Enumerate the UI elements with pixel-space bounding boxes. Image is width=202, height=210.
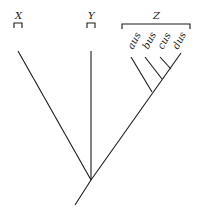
label-aus: aus xyxy=(125,30,143,51)
label-dus: dus xyxy=(170,30,188,51)
bracket-x xyxy=(14,23,22,28)
group-x: X xyxy=(14,10,23,28)
label-cus: cus xyxy=(155,31,173,51)
label-bus: bus xyxy=(140,30,158,51)
bracket-y xyxy=(87,23,95,28)
label-z: Z xyxy=(152,10,161,21)
label-x: X xyxy=(14,10,23,21)
branch-root xyxy=(75,180,91,205)
branch-bus xyxy=(145,57,162,79)
branch-x xyxy=(18,51,91,180)
group-z: Z aus bus cus dus xyxy=(122,10,190,51)
branch-cus xyxy=(160,57,171,69)
branch-z-main xyxy=(91,53,181,180)
bracket-z xyxy=(122,24,190,29)
tree-branches xyxy=(18,51,181,205)
label-y: Y xyxy=(88,10,96,21)
group-y: Y xyxy=(87,10,96,28)
cladogram: X Y Z aus bus cus dus xyxy=(0,0,202,210)
